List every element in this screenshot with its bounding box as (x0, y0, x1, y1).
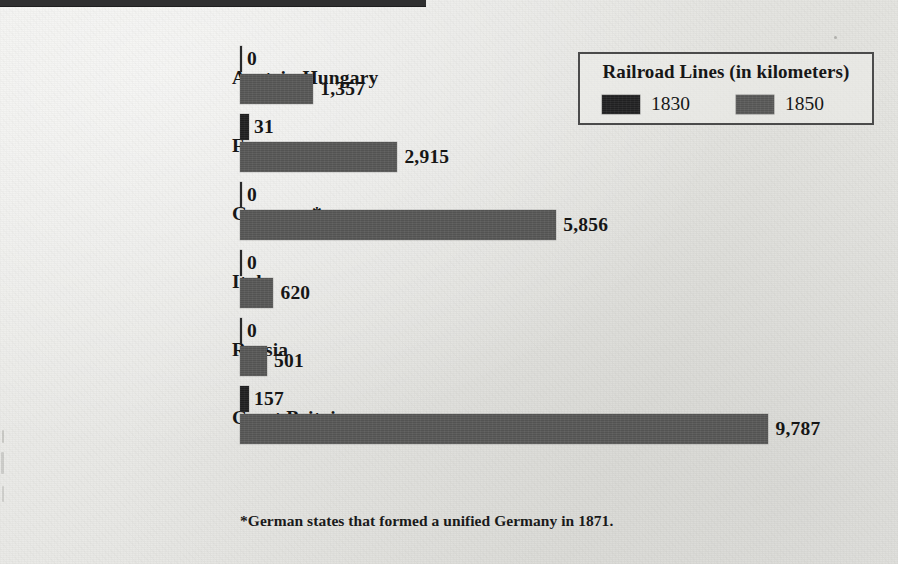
bar-texture (240, 414, 768, 444)
bar-value-1830: 0 (247, 252, 257, 274)
bar-value-1850: 5,856 (563, 214, 608, 236)
bar-1830[interactable]: 0 (240, 46, 242, 72)
chart-row: Germany*05,856 (0, 182, 898, 250)
legend-label-1850: 1850 (785, 93, 824, 115)
bar-texture (240, 278, 273, 308)
bar-value-1850: 501 (274, 350, 304, 372)
bar-value-1830: 0 (247, 48, 257, 70)
legend-entry-1830[interactable]: 1830 (602, 93, 690, 115)
bar-1830[interactable]: 0 (240, 182, 242, 208)
bar-value-1850: 9,787 (775, 418, 820, 440)
chart-row: Great Britain1579,787 (0, 386, 898, 454)
chart-legend: Railroad Lines (in kilometers) 1830 1850 (578, 52, 874, 125)
bar-1830[interactable]: 0 (240, 318, 242, 344)
bar-texture (240, 210, 556, 240)
top-page-rule (0, 0, 426, 7)
bar-1850[interactable]: 2,915 (240, 142, 397, 172)
bar-1850[interactable]: 5,856 (240, 210, 556, 240)
chart-footnote: *German states that formed a unified Ger… (240, 512, 613, 530)
swatch-texture (602, 95, 640, 114)
legend-entry-1850[interactable]: 1850 (736, 93, 824, 115)
bar-1830[interactable]: 31 (240, 114, 249, 140)
bar-value-1830: 0 (247, 320, 257, 342)
bar-1830[interactable]: 0 (240, 250, 242, 276)
bar-texture (240, 346, 267, 376)
legend-label-1830: 1830 (651, 93, 690, 115)
bar-value-1850: 1,357 (320, 78, 365, 100)
bar-1830[interactable]: 157 (240, 386, 249, 412)
chart-row: Italy0620 (0, 250, 898, 318)
legend-swatch-icon (602, 95, 640, 114)
bar-value-1850: 620 (280, 282, 310, 304)
scan-edge-mark (2, 486, 4, 502)
legend-swatch-icon (736, 95, 774, 114)
chart-row: Russia0501 (0, 318, 898, 386)
bar-value-1850: 2,915 (404, 146, 449, 168)
bar-value-1830: 0 (247, 184, 257, 206)
bar-value-1830: 157 (254, 388, 284, 410)
bar-value-1830: 31 (254, 116, 274, 138)
bar-texture (240, 74, 313, 104)
bar-1850[interactable]: 9,787 (240, 414, 768, 444)
bar-texture (240, 386, 249, 412)
chart-page: Austria-Hungary01,357France312,915German… (0, 0, 898, 564)
bar-texture (240, 142, 397, 172)
bar-1850[interactable]: 501 (240, 346, 267, 376)
swatch-texture (736, 95, 774, 114)
bar-1850[interactable]: 620 (240, 278, 273, 308)
legend-title: Railroad Lines (in kilometers) (580, 61, 872, 83)
bar-1850[interactable]: 1,357 (240, 74, 313, 104)
bar-texture (240, 114, 249, 140)
scan-speck (834, 36, 837, 39)
